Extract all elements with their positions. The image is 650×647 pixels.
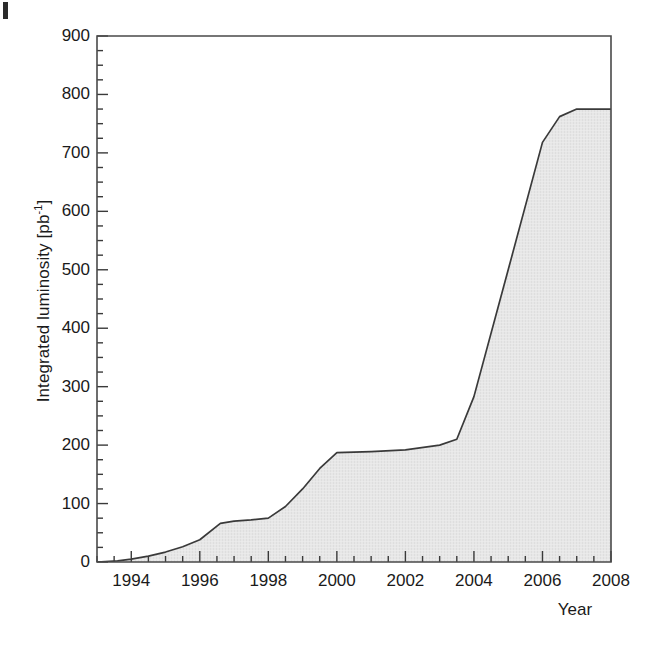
chart-figure: Integrated luminosity [pb-1] Year 010020… [0, 0, 650, 647]
area-series [97, 109, 611, 562]
plot-canvas [0, 0, 650, 647]
